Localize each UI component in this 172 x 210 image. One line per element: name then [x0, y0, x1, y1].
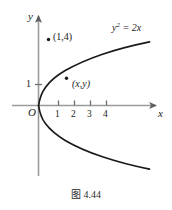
point-marker-1-4 — [47, 38, 50, 41]
point-label-xy: (x,y) — [72, 79, 90, 89]
figure-caption: 图 4.44 — [0, 186, 172, 201]
x-tick-label-4: 4 — [103, 110, 108, 120]
x-tick-label-2: 2 — [71, 110, 76, 120]
y-tick-label-1: 1 — [26, 79, 31, 89]
x-tick-label-1: 1 — [55, 110, 60, 120]
parabola-upper-branch — [39, 42, 150, 106]
origin-label: O — [28, 107, 36, 118]
point-label-1-4: (1,4) — [53, 32, 72, 42]
y-axis-label: y — [28, 11, 33, 22]
x-axis-label: x — [158, 108, 163, 119]
point-marker-xy — [65, 77, 68, 80]
curve-equation-rest: = 2x — [120, 22, 141, 33]
curve-equation-label: y2 = 2x — [112, 23, 141, 33]
parabola-plot — [0, 0, 172, 210]
x-tick-label-3: 3 — [87, 110, 92, 120]
figure-container: y x O 1 1 2 3 4 (1,4) (x,y) y2 = 2x 图 4.… — [0, 0, 172, 210]
